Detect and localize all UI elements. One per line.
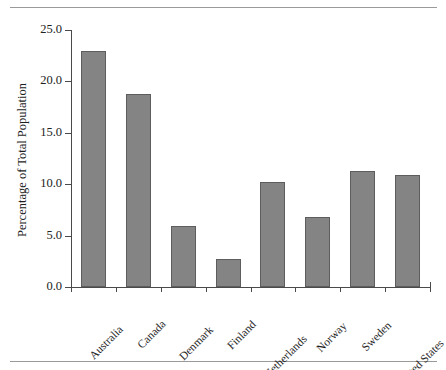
x-axis-tick (71, 287, 72, 292)
y-axis-line (71, 30, 72, 288)
x-axis-label: Norway (314, 320, 348, 354)
x-axis-label: Sweden (360, 320, 394, 354)
bar (305, 217, 330, 287)
y-axis-tick (65, 133, 71, 134)
x-axis-tick (385, 287, 386, 292)
x-axis-label: Finland (226, 319, 259, 352)
x-axis-tick (206, 287, 207, 292)
x-axis-label: Canada (136, 318, 169, 351)
x-axis-label: United States (394, 338, 446, 370)
y-axis-tick-label: 0.0 (46, 280, 62, 293)
y-axis-tick-label: 5.0 (46, 229, 62, 242)
bar (216, 259, 241, 287)
bar (395, 175, 420, 287)
y-axis-tick (65, 236, 71, 237)
x-axis-label: Denmark (177, 324, 215, 362)
y-axis-tick-label: 15.0 (40, 126, 62, 139)
x-axis-tick (251, 287, 252, 292)
x-axis-label: Australia (88, 324, 126, 362)
x-axis-tick (295, 287, 296, 292)
y-axis-tick-label: 25.0 (40, 23, 62, 36)
x-axis-label: Netherlands (262, 333, 309, 370)
y-axis-tick (65, 30, 71, 31)
x-axis-tick (340, 287, 341, 292)
bar (126, 94, 151, 287)
x-axis-tick (430, 287, 431, 292)
chart-figure: Percentage of Total Population 0.05.010.… (0, 0, 446, 370)
bar (350, 171, 375, 287)
x-axis-tick (116, 287, 117, 292)
y-axis-tick (65, 81, 71, 82)
plot-area: Percentage of Total Population 0.05.010.… (0, 0, 446, 370)
y-axis-tick (65, 184, 71, 185)
y-axis-tick-label: 10.0 (40, 177, 62, 190)
bar (171, 226, 196, 287)
y-axis-tick-label: 20.0 (40, 74, 62, 87)
y-axis-title: Percentage of Total Population (16, 30, 29, 290)
bar (260, 182, 285, 287)
bar (81, 51, 106, 287)
x-axis-tick (161, 287, 162, 292)
